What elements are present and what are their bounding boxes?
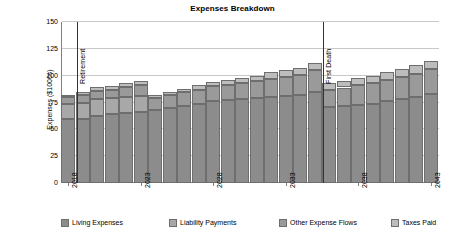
bar-group[interactable]: [424, 22, 438, 183]
bar-group[interactable]: [105, 22, 119, 183]
bar-segment[interactable]: [264, 97, 278, 183]
bar-group[interactable]: [134, 22, 148, 183]
bar-group[interactable]: [409, 22, 423, 183]
bar-segment[interactable]: [293, 68, 307, 74]
legend-item[interactable]: Living Expenses: [61, 219, 123, 227]
bar-group[interactable]: [395, 22, 409, 183]
bar-segment[interactable]: [134, 85, 148, 96]
bar-group[interactable]: [221, 22, 235, 183]
bar-group[interactable]: [351, 22, 365, 183]
bar-segment[interactable]: [395, 69, 409, 77]
bar-segment[interactable]: [90, 87, 104, 90]
bar-segment[interactable]: [337, 106, 351, 183]
bar-segment[interactable]: [61, 97, 75, 103]
legend-item[interactable]: Other Expense Flows: [279, 219, 357, 227]
bar-segment[interactable]: [308, 63, 322, 71]
bar-group[interactable]: [366, 22, 380, 183]
bar-segment[interactable]: [235, 99, 249, 183]
bar-segment[interactable]: [148, 98, 162, 110]
bar-segment[interactable]: [105, 86, 119, 89]
bar-group[interactable]: [163, 22, 177, 183]
bar-segment[interactable]: [119, 113, 133, 183]
bar-segment[interactable]: [351, 85, 365, 104]
bar-segment[interactable]: [90, 116, 104, 183]
bar-segment[interactable]: [105, 98, 119, 114]
bar-segment[interactable]: [409, 65, 423, 74]
legend-item[interactable]: Liability Payments: [169, 219, 236, 227]
bar-segment[interactable]: [366, 83, 380, 103]
bar-segment[interactable]: [308, 92, 322, 183]
bar-segment[interactable]: [235, 83, 249, 99]
bar-segment[interactable]: [351, 78, 365, 86]
bar-segment[interactable]: [250, 76, 264, 81]
bar-segment[interactable]: [163, 92, 177, 95]
bar-segment[interactable]: [206, 101, 220, 183]
bar-segment[interactable]: [250, 98, 264, 183]
bar-segment[interactable]: [192, 85, 206, 89]
bar-segment[interactable]: [235, 78, 249, 83]
bar-segment[interactable]: [279, 70, 293, 76]
bar-segment[interactable]: [250, 81, 264, 98]
bar-segment[interactable]: [163, 108, 177, 183]
bar-segment[interactable]: [308, 70, 322, 91]
bar-segment[interactable]: [380, 80, 394, 101]
bar-segment[interactable]: [148, 95, 162, 98]
bar-group[interactable]: [177, 22, 191, 183]
bar-group[interactable]: [61, 22, 75, 183]
bar-group[interactable]: [119, 22, 133, 183]
bar-segment[interactable]: [380, 101, 394, 183]
bar-group[interactable]: [235, 22, 249, 183]
bar-segment[interactable]: [192, 90, 206, 104]
bar-segment[interactable]: [206, 82, 220, 86]
bar-segment[interactable]: [206, 86, 220, 101]
bar-segment[interactable]: [90, 91, 104, 100]
bar-segment[interactable]: [424, 94, 438, 183]
bar-group[interactable]: [90, 22, 104, 183]
bar-segment[interactable]: [337, 81, 351, 87]
bar-segment[interactable]: [192, 104, 206, 183]
bar-segment[interactable]: [221, 80, 235, 85]
bar-segment[interactable]: [366, 76, 380, 84]
bar-group[interactable]: [148, 22, 162, 183]
bar-segment[interactable]: [293, 95, 307, 183]
legend-item[interactable]: Taxes Paid: [391, 219, 436, 227]
bar-segment[interactable]: [90, 99, 104, 116]
bar-segment[interactable]: [61, 95, 75, 97]
bar-group[interactable]: [279, 22, 293, 183]
bar-group[interactable]: [264, 22, 278, 183]
bar-group[interactable]: [380, 22, 394, 183]
bar-segment[interactable]: [134, 96, 148, 112]
bar-segment[interactable]: [105, 114, 119, 183]
bar-group[interactable]: [337, 22, 351, 183]
bar-segment[interactable]: [134, 81, 148, 85]
bar-segment[interactable]: [337, 88, 351, 106]
bar-group[interactable]: [206, 22, 220, 183]
bar-group[interactable]: [192, 22, 206, 183]
bar-segment[interactable]: [409, 97, 423, 183]
bar-segment[interactable]: [424, 61, 438, 70]
bar-segment[interactable]: [177, 89, 191, 92]
bar-segment[interactable]: [279, 96, 293, 183]
bar-segment[interactable]: [279, 77, 293, 96]
bar-segment[interactable]: [119, 97, 133, 113]
bar-segment[interactable]: [424, 69, 438, 94]
bar-group[interactable]: [250, 22, 264, 183]
bar-segment[interactable]: [177, 92, 191, 106]
bar-segment[interactable]: [177, 106, 191, 183]
bar-segment[interactable]: [163, 95, 177, 108]
bar-segment[interactable]: [264, 72, 278, 78]
bar-segment[interactable]: [293, 75, 307, 95]
bar-segment[interactable]: [119, 83, 133, 87]
bar-group[interactable]: [293, 22, 307, 183]
bar-segment[interactable]: [221, 85, 235, 100]
bar-segment[interactable]: [395, 99, 409, 183]
bar-segment[interactable]: [105, 90, 119, 99]
bar-segment[interactable]: [61, 104, 75, 119]
bar-segment[interactable]: [380, 72, 394, 80]
bar-segment[interactable]: [119, 87, 133, 97]
bar-group[interactable]: [308, 22, 322, 183]
bar-segment[interactable]: [395, 77, 409, 100]
bar-segment[interactable]: [221, 100, 235, 183]
bar-segment[interactable]: [409, 74, 423, 98]
bar-segment[interactable]: [264, 79, 278, 97]
